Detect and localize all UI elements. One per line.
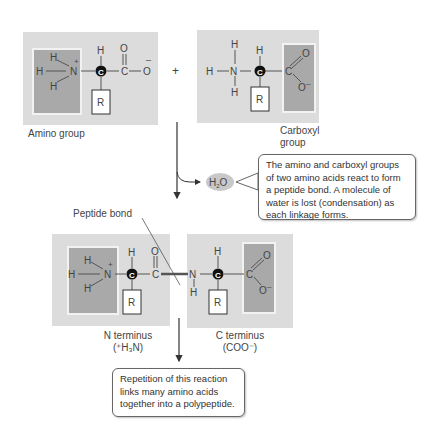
repetition-callout: Repetition of this reaction links many a…: [112, 368, 245, 417]
svg-text:R: R: [97, 97, 104, 108]
reaction-arrow: [177, 122, 200, 198]
c-terminus-label: C terminus (COO⁻): [202, 330, 278, 354]
svg-text:+: +: [108, 260, 113, 269]
svg-text:H: H: [50, 81, 57, 92]
amino-group-label: Amino group: [28, 128, 85, 140]
svg-text:H: H: [84, 255, 91, 266]
svg-text:N: N: [104, 269, 111, 280]
svg-text:O: O: [302, 48, 310, 59]
amino-acid-2-structure: H H H N C H C O O – R: [206, 39, 311, 111]
svg-text:+: +: [74, 57, 79, 66]
svg-text:C: C: [246, 269, 253, 280]
svg-text:R: R: [256, 94, 263, 105]
svg-text:H: H: [68, 269, 75, 280]
svg-text:H: H: [206, 66, 213, 77]
svg-text:H: H: [256, 45, 263, 56]
amino-acid-1-structure: H H H N + C H C O O – R: [36, 43, 151, 114]
svg-text:O: O: [120, 43, 128, 54]
dipeptide-structure: H H H N + C H C O R N H C H C O O – R: [68, 246, 272, 314]
svg-text:N: N: [189, 269, 196, 280]
svg-text:–: –: [306, 79, 311, 88]
peptide-bond-label: Peptide bond: [73, 208, 132, 220]
svg-text:C: C: [129, 271, 135, 280]
svg-text:H: H: [214, 246, 221, 257]
svg-text:H: H: [231, 87, 238, 98]
svg-text:R: R: [214, 297, 221, 308]
svg-text:H: H: [128, 247, 135, 258]
reaction-callout: The amino and carboxyl groups of two ami…: [258, 154, 416, 220]
svg-text:H: H: [97, 45, 104, 56]
svg-text:R: R: [128, 297, 135, 308]
svg-text:O: O: [298, 82, 306, 93]
atom-h: H: [36, 66, 43, 77]
n-terminus-label: N terminus (⁺H₃N): [90, 330, 166, 354]
svg-text:C: C: [285, 66, 292, 77]
svg-text:–: –: [267, 282, 272, 291]
carboxyl-group-label: Carboxyl group: [280, 125, 319, 149]
svg-text:C: C: [98, 68, 104, 77]
svg-text:N: N: [230, 66, 237, 77]
svg-text:O: O: [263, 250, 271, 261]
svg-text:O: O: [151, 246, 159, 257]
svg-text:H: H: [50, 52, 57, 63]
svg-text:O: O: [143, 66, 151, 77]
svg-text:C: C: [152, 269, 159, 280]
plus-sign: +: [172, 64, 179, 78]
svg-text:C: C: [257, 68, 263, 77]
svg-text:C: C: [215, 271, 221, 280]
svg-text:C: C: [121, 66, 128, 77]
svg-text:H: H: [84, 283, 91, 294]
svg-text:N: N: [70, 66, 77, 77]
svg-text:H: H: [190, 287, 197, 298]
svg-text:O: O: [259, 285, 267, 296]
callout-pointer: [236, 173, 258, 190]
svg-text:–: –: [146, 55, 151, 65]
svg-text:H: H: [231, 39, 238, 50]
